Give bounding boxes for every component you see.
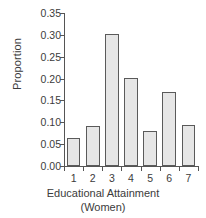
x-axis-tick-label: 6 (159, 172, 179, 184)
x-axis-tick-mark (160, 167, 161, 171)
y-axis-tick-label: 0.15 (28, 95, 61, 105)
x-axis-tick-labels: 1234567 (64, 172, 198, 186)
x-axis-tick-mark (141, 167, 142, 171)
y-axis-tick-label: 0.20 (28, 74, 61, 84)
x-axis-tick-mark (102, 167, 103, 171)
bar (86, 126, 100, 166)
x-axis-tick-label: 3 (102, 172, 122, 184)
y-axis-tick-label: 0.10 (28, 117, 61, 127)
plot-area (64, 13, 198, 166)
x-axis-tick-label: 7 (178, 172, 198, 184)
bar (124, 78, 138, 166)
y-axis-tick-label: 0.30 (28, 30, 61, 40)
bar-chart-figure: Proportion 0.000.050.100.150.200.250.300… (0, 0, 206, 218)
x-axis-title: Educational Attainment (0, 187, 206, 199)
x-axis-tick-mark (121, 167, 122, 171)
x-axis-tick-label: 4 (121, 172, 141, 184)
bar (105, 34, 119, 166)
x-axis-tick-mark (83, 167, 84, 171)
x-axis-tick-mark (64, 167, 65, 171)
x-axis-tick-mark (179, 167, 180, 171)
x-axis-tick-label: 5 (140, 172, 160, 184)
x-axis-tick-label: 1 (64, 172, 84, 184)
bar (182, 125, 196, 166)
y-axis-tick-label: 0.05 (28, 139, 61, 149)
y-axis-tick-label: 0.00 (28, 161, 61, 171)
x-axis-tick-label: 2 (83, 172, 103, 184)
bar (143, 131, 157, 166)
y-axis-tick-label: 0.35 (28, 8, 61, 18)
y-axis-title: Proportion (11, 14, 23, 114)
y-axis-tick-label: 0.25 (28, 52, 61, 62)
bar (162, 92, 176, 166)
x-axis-subtitle: (Women) (0, 201, 206, 213)
bar (67, 138, 81, 166)
x-axis-tick-mark (198, 167, 199, 171)
y-axis-tick-labels: 0.000.050.100.150.200.250.300.35 (28, 0, 61, 175)
